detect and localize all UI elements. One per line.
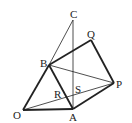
label-Q: Q [87,28,95,40]
segment-OA [23,109,73,110]
geometry-diagram: O A B C Q P R S [0,0,132,123]
segment-QP [91,40,114,83]
label-C: C [70,8,77,20]
segment-BP [49,65,114,83]
label-R: R [54,88,62,100]
label-O: O [13,109,21,121]
label-P: P [116,78,122,90]
segment-BA [49,65,73,109]
label-S: S [75,83,81,95]
label-A: A [69,111,77,123]
label-B: B [40,57,47,69]
